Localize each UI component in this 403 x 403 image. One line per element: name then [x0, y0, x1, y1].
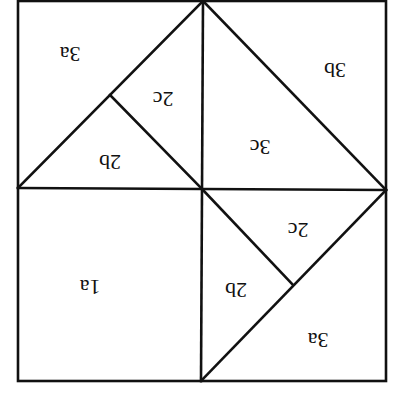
- svg-text:1a: 1a: [79, 275, 100, 300]
- piece-label-3c: 3c: [249, 135, 270, 160]
- svg-text:2c: 2c: [287, 218, 308, 243]
- dissection-diagram: 3a 2c 2b 3b 3c 1a 2c 2b 3a: [0, 0, 403, 403]
- piece-label-1a: 1a: [79, 275, 100, 300]
- svg-text:2b: 2b: [99, 150, 121, 175]
- bottom-right-perpendicular: [202, 189, 293, 285]
- top-right-diagonal: [203, 1, 386, 190]
- piece-label-2b-bottom: 2b: [225, 278, 247, 303]
- piece-label-3a-top: 3a: [59, 42, 80, 67]
- svg-text:2c: 2c: [152, 87, 173, 112]
- piece-label-3a-bottom: 3a: [307, 328, 328, 353]
- svg-text:2b: 2b: [225, 278, 247, 303]
- piece-label-2b-top: 2b: [99, 150, 121, 175]
- svg-text:3b: 3b: [324, 58, 346, 83]
- piece-label-3b: 3b: [324, 58, 346, 83]
- piece-label-2c-top: 2c: [152, 87, 173, 112]
- piece-label-2c-bottom: 2c: [287, 218, 308, 243]
- diagram-canvas: 3a 2c 2b 3b 3c 1a 2c 2b 3a: [0, 0, 403, 403]
- svg-text:3a: 3a: [59, 42, 80, 67]
- svg-text:3a: 3a: [307, 328, 328, 353]
- svg-text:3c: 3c: [249, 135, 270, 160]
